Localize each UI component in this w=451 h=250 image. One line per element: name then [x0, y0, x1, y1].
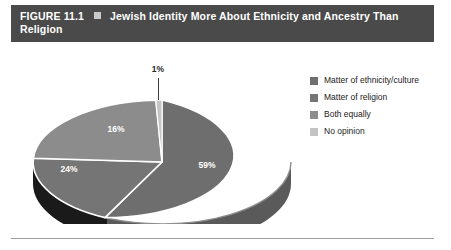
pie-data-label-slice4: 1%	[152, 64, 165, 74]
legend-swatch-icon	[310, 94, 318, 102]
figure-header-line: FIGURE 11.1Jewish Identity More About Et…	[20, 10, 425, 36]
legend-item-matter-of-ethnicity-culture[interactable]: Matter of ethnicity/culture	[310, 74, 445, 90]
legend-label: Matter of ethnicity/culture	[324, 74, 419, 87]
pie-data-label-slice2: 24%	[60, 164, 77, 174]
legend-swatch-icon	[310, 111, 318, 119]
figure-header: FIGURE 11.1Jewish Identity More About Et…	[11, 5, 434, 42]
footer-divider	[11, 238, 434, 239]
legend-swatch-icon	[310, 77, 318, 85]
legend-item-no-opinion[interactable]: No opinion	[310, 125, 445, 141]
chart-legend: Matter of ethnicity/culture Matter of re…	[310, 74, 445, 142]
figure-container: FIGURE 11.1Jewish Identity More About Et…	[0, 0, 451, 250]
figure-number: FIGURE 11.1	[20, 10, 84, 22]
pie-data-label-slice1: 59%	[198, 160, 215, 170]
legend-label: No opinion	[324, 125, 365, 138]
legend-label: Matter of religion	[324, 91, 387, 104]
square-bullet-icon	[94, 12, 101, 19]
pie-data-label-slice3: 16%	[107, 124, 124, 134]
chart-area: 59% 24% 16% 1% Matter of ethnicity/cultu…	[11, 44, 434, 224]
legend-item-both-equally[interactable]: Both equally	[310, 108, 445, 124]
legend-label: Both equally	[324, 108, 371, 121]
pie-slice-both-equally	[33, 100, 162, 162]
legend-item-matter-of-religion[interactable]: Matter of religion	[310, 91, 445, 107]
legend-swatch-icon	[310, 128, 318, 136]
